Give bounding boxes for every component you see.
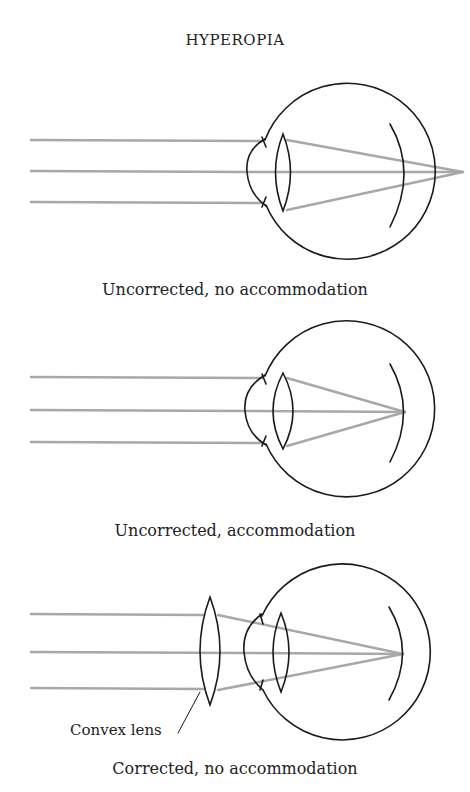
panel-3-caption: Corrected, no accommodation bbox=[0, 759, 470, 778]
panel-1-eye bbox=[31, 83, 463, 259]
hyperopia-diagram bbox=[0, 0, 470, 792]
retina bbox=[390, 124, 404, 227]
panel-1-caption: Uncorrected, no accommodation bbox=[0, 280, 470, 299]
panel-2-caption: Uncorrected, accommodation bbox=[0, 521, 470, 540]
convex-lens-label: Convex lens bbox=[70, 721, 162, 739]
panel-3-eye bbox=[31, 564, 430, 740]
panel-2-eye bbox=[31, 321, 435, 497]
